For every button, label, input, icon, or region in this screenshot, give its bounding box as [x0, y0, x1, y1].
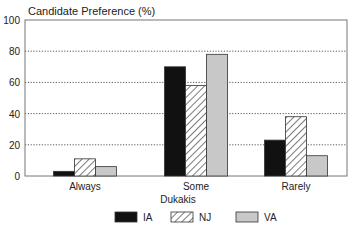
y-tick-label: 0: [14, 171, 20, 182]
bar-ia-some: [165, 67, 186, 176]
x-tick-label: Rarely: [282, 181, 311, 192]
bar-ia-always: [54, 171, 75, 176]
x-axis-labels: AlwaysSomeRarely: [69, 181, 310, 192]
bar-va-always: [96, 167, 117, 176]
chart-title: Candidate Preference (%): [28, 5, 155, 17]
y-tick-label: 20: [9, 140, 21, 151]
legend-swatch-ia: [115, 212, 137, 222]
bar-ia-rarely: [265, 140, 286, 176]
y-tick-label: 40: [9, 109, 21, 120]
x-tick-label: Some: [183, 181, 210, 192]
bars: [54, 54, 328, 176]
legend: IANJVA: [115, 212, 277, 223]
bar-va-rarely: [307, 156, 328, 176]
legend-swatch-nj: [171, 212, 193, 222]
y-tick-label: 100: [3, 15, 20, 26]
legend-swatch-va: [236, 212, 258, 222]
bar-va-some: [207, 54, 228, 176]
bar-nj-rarely: [286, 117, 307, 176]
x-tick-label: Always: [69, 181, 101, 192]
legend-label: NJ: [199, 212, 211, 223]
bar-nj-some: [186, 86, 207, 176]
y-tick-label: 80: [9, 46, 21, 57]
legend-label: IA: [143, 212, 153, 223]
x-axis-title: Dukakis: [160, 194, 196, 205]
legend-label: VA: [264, 212, 277, 223]
bar-nj-always: [75, 159, 96, 176]
bar-chart: Candidate Preference (%) 020406080100 Al…: [0, 0, 356, 234]
y-tick-label: 60: [9, 77, 21, 88]
